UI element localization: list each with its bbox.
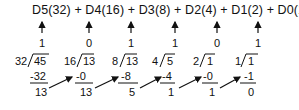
quotient-d0: 1 bbox=[252, 37, 264, 49]
dividend: 45 bbox=[34, 55, 46, 67]
quotient-d1: 0 bbox=[211, 37, 223, 49]
divisor: 32 bbox=[15, 55, 27, 67]
subtrahend: -0 bbox=[76, 70, 86, 82]
remainder: 5 bbox=[129, 86, 135, 98]
divisor: 8 bbox=[112, 55, 118, 67]
carry-arrow-icon bbox=[220, 77, 240, 88]
subtrahend: -4 bbox=[162, 70, 172, 82]
subtrahend: -32 bbox=[30, 70, 46, 82]
dividend: 13 bbox=[126, 55, 138, 67]
carry-arrow-icon bbox=[179, 77, 201, 88]
remainder: 13 bbox=[80, 86, 92, 98]
subtrahend: -8 bbox=[121, 70, 131, 82]
dividend: 1 bbox=[207, 55, 213, 67]
dividend: 1 bbox=[248, 55, 254, 67]
divisor: 1 bbox=[235, 55, 241, 67]
divisor: 2 bbox=[193, 55, 199, 67]
remainder: 1 bbox=[209, 86, 215, 98]
dividend: 13 bbox=[83, 55, 95, 67]
carry-arrow-icon bbox=[140, 77, 161, 88]
carry-arrow-icon bbox=[95, 77, 118, 88]
remainder: 0 bbox=[248, 86, 254, 98]
quotient-d3: 1 bbox=[125, 37, 137, 49]
remainder: 1 bbox=[168, 86, 174, 98]
divisor: 4 bbox=[152, 55, 158, 67]
quotient-d5: 1 bbox=[36, 37, 48, 49]
dividend: 5 bbox=[167, 55, 173, 67]
subtrahend: -0 bbox=[203, 70, 213, 82]
divisor: 16 bbox=[64, 55, 76, 67]
carry-arrow-icon bbox=[49, 77, 72, 88]
remainder: 13 bbox=[35, 86, 47, 98]
subtrahend: -1 bbox=[244, 70, 254, 82]
quotient-d2: 1 bbox=[169, 37, 181, 49]
quotient-d4: 0 bbox=[83, 37, 95, 49]
